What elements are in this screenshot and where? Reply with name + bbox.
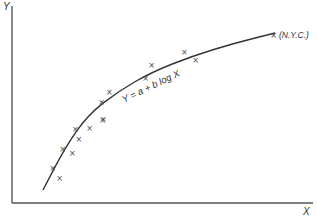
data-point-marker: ×	[106, 88, 113, 97]
data-point-marker: ×	[75, 135, 82, 144]
data-points: ××××××××××××××××	[49, 31, 277, 183]
data-point-marker: ×	[181, 48, 188, 57]
data-point-marker: ×	[98, 98, 105, 107]
x-axis-label: X	[302, 206, 310, 217]
data-point-marker: ×	[86, 124, 93, 133]
data-point-marker: ×	[59, 145, 66, 154]
data-point-marker: ×	[192, 56, 199, 65]
data-point-marker: ×	[69, 149, 76, 158]
scatter-chart: Y X Y = a + b log X ×××××××××××××××× (N.…	[0, 0, 317, 219]
data-point-marker: ×	[142, 74, 149, 83]
fit-curve	[43, 33, 275, 190]
data-point-marker: ×	[49, 164, 56, 173]
nyc-annotation: (N.Y.C.)	[279, 30, 309, 40]
data-point-marker: ×	[100, 115, 107, 124]
data-point-marker: ×	[270, 31, 277, 40]
data-point-marker: ×	[72, 125, 79, 134]
data-point-marker: ×	[148, 61, 155, 70]
data-point-marker: ×	[56, 174, 63, 183]
y-axis-label: Y	[3, 1, 11, 12]
